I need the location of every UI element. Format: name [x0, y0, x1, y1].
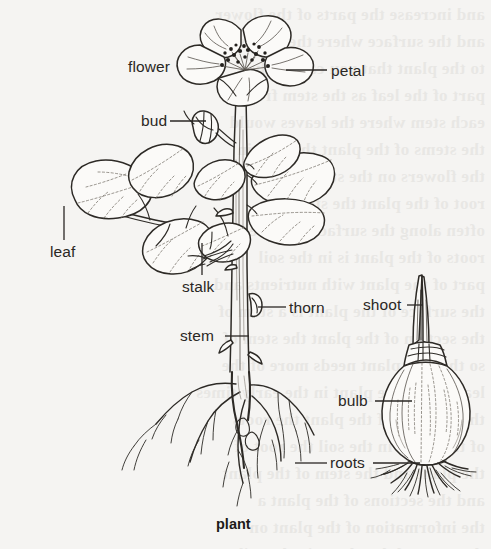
leaf-cluster-upper-right [244, 135, 335, 245]
root-system-taproot [122, 372, 314, 506]
label-roots: roots [330, 454, 365, 472]
label-stem: stem [180, 327, 214, 345]
bulb-fibrous-roots [371, 461, 476, 497]
plant-illustration: .o{fill:none;stroke:#2d2a26;stroke-width… [0, 0, 491, 549]
flower-head [177, 16, 313, 106]
label-flower: flower [128, 58, 170, 76]
label-bulb: bulb [338, 392, 368, 410]
figure-caption: plant [216, 516, 251, 532]
label-petal: petal [331, 62, 365, 80]
label-leaf: leaf [50, 243, 75, 261]
plant-diagram-figure: and increase the parts of the flowerand … [0, 0, 491, 549]
label-shoot: shoot [363, 296, 401, 314]
label-thorn: thorn [289, 299, 325, 317]
label-bud: bud [141, 112, 167, 130]
flower-bud [184, 111, 236, 147]
label-stalk: stalk [182, 278, 214, 296]
